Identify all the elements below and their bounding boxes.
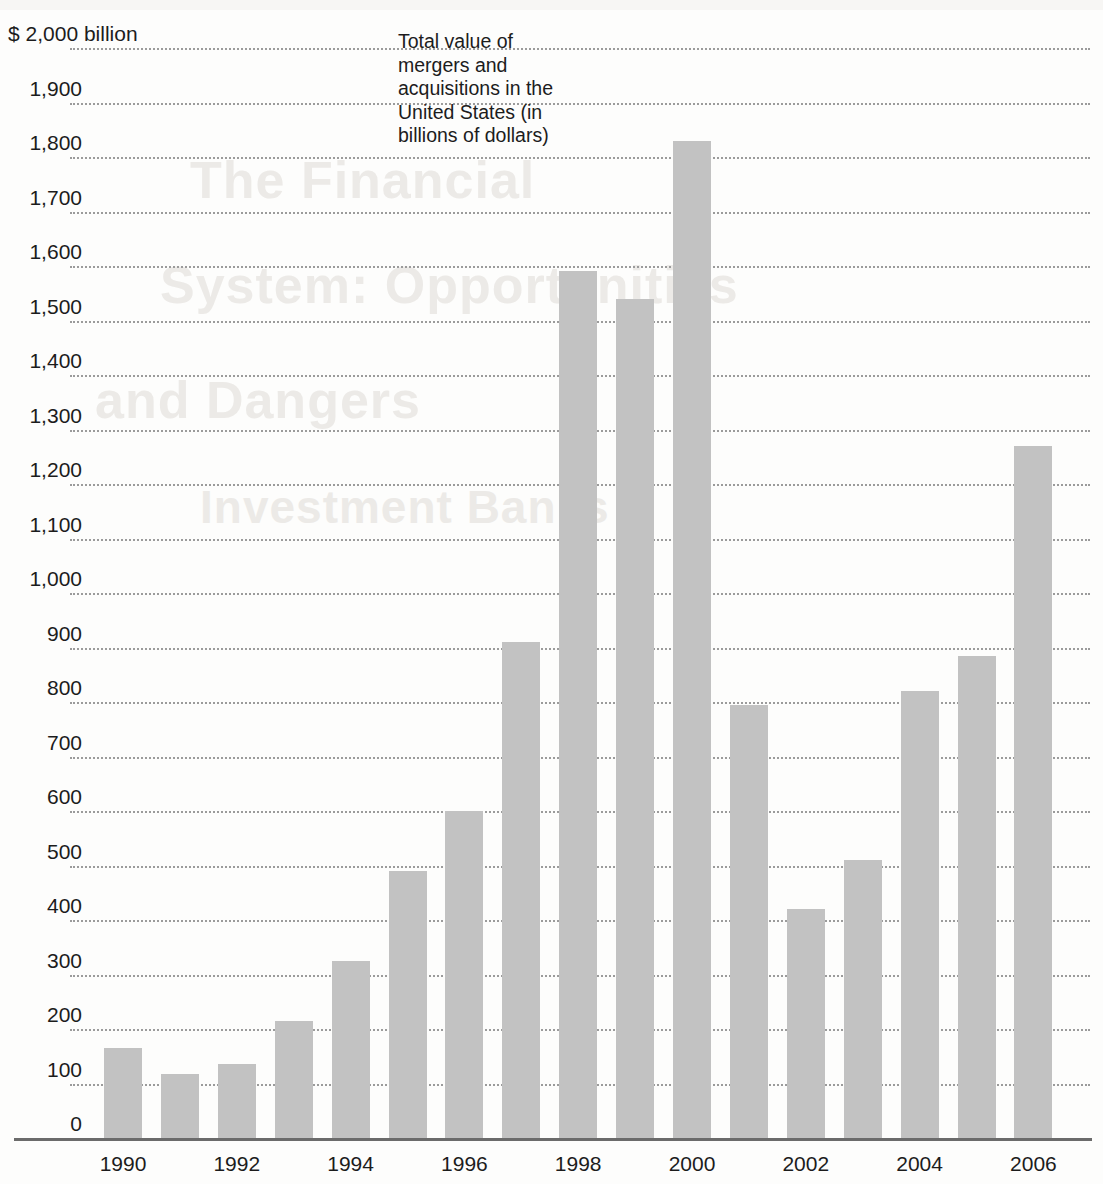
y-tick-label-800: 800 — [0, 676, 82, 700]
y-tick-label-1400: 1,400 — [0, 349, 82, 373]
chart-page: The Financial System: Opportunities and … — [0, 0, 1103, 1184]
bar-1992 — [218, 1064, 256, 1138]
y-tick-label-1800: 1,800 — [0, 131, 82, 155]
x-tick-label-1996: 1996 — [414, 1152, 514, 1176]
y-tick-label-2000: $ 2,000 billion — [8, 22, 158, 46]
x-tick-label-1992: 1992 — [187, 1152, 287, 1176]
y-tick-label-1600: 1,600 — [0, 240, 82, 264]
y-tick-label-1500: 1,500 — [0, 295, 82, 319]
bar-1995 — [389, 871, 427, 1138]
bar-1990 — [104, 1048, 142, 1138]
bar-1996 — [445, 811, 483, 1138]
bar-2001 — [730, 705, 768, 1138]
x-tick-label-2002: 2002 — [756, 1152, 856, 1176]
gridline-2000 — [70, 48, 1090, 50]
bar-1998 — [559, 271, 597, 1138]
gridline-1700 — [70, 212, 1090, 214]
y-tick-label-500: 500 — [0, 840, 82, 864]
x-tick-label-1990: 1990 — [73, 1152, 173, 1176]
y-tick-label-1300: 1,300 — [0, 404, 82, 428]
y-tick-label-1900: 1,900 — [0, 77, 82, 101]
bar-2000 — [673, 141, 711, 1138]
bar-1994 — [332, 961, 370, 1138]
bar-2003 — [844, 860, 882, 1138]
x-axis-line — [14, 1138, 1092, 1141]
gridline-1800 — [70, 157, 1090, 159]
bar-2002 — [787, 909, 825, 1138]
bar-chart: $ 2,000 billion1,9001,8001,7001,6001,500… — [0, 0, 1103, 1184]
bar-2005 — [958, 656, 996, 1138]
y-tick-label-300: 300 — [0, 949, 82, 973]
x-tick-label-2000: 2000 — [642, 1152, 742, 1176]
y-tick-label-600: 600 — [0, 785, 82, 809]
y-tick-label-1000: 1,000 — [0, 567, 82, 591]
y-tick-label-700: 700 — [0, 731, 82, 755]
gridline-1600 — [70, 266, 1090, 268]
y-tick-label-1200: 1,200 — [0, 458, 82, 482]
x-tick-label-2006: 2006 — [983, 1152, 1083, 1176]
chart-title: Total value of mergers and acquisitions … — [398, 30, 573, 148]
bar-1999 — [616, 299, 654, 1138]
bar-1997 — [502, 642, 540, 1138]
bar-1991 — [161, 1074, 199, 1138]
x-tick-label-2004: 2004 — [870, 1152, 970, 1176]
y-tick-label-0: 0 — [0, 1112, 82, 1136]
bar-2006 — [1014, 446, 1052, 1138]
gridline-1900 — [70, 103, 1090, 105]
y-tick-label-400: 400 — [0, 894, 82, 918]
bar-2004 — [901, 691, 939, 1138]
y-tick-label-200: 200 — [0, 1003, 82, 1027]
x-tick-label-1998: 1998 — [528, 1152, 628, 1176]
y-tick-label-1700: 1,700 — [0, 186, 82, 210]
y-tick-label-1100: 1,100 — [0, 513, 82, 537]
y-tick-label-100: 100 — [0, 1058, 82, 1082]
x-tick-label-1994: 1994 — [301, 1152, 401, 1176]
y-tick-label-900: 900 — [0, 622, 82, 646]
bar-1993 — [275, 1021, 313, 1138]
